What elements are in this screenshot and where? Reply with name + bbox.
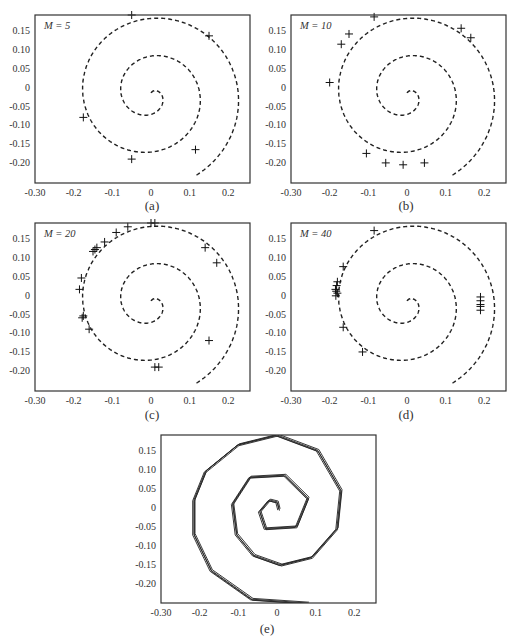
y-tick-label: 0.10 xyxy=(13,44,31,55)
data-point-plus-icon xyxy=(91,246,99,254)
data-point-plus-icon xyxy=(112,228,120,236)
data-point-plus-icon xyxy=(213,259,221,267)
y-tick-label: 0.10 xyxy=(269,252,287,263)
y-tick-label: -0.10 xyxy=(9,327,30,338)
trajectory-plot-e: -0.30-0.2-0.100.10.20.150.100.050-0.05-0… xyxy=(126,420,388,620)
x-tick-label: -0.1 xyxy=(360,187,376,198)
plot-frame xyxy=(161,435,376,603)
scatter-plot-a: -0.30-0.2-0.100.10.20.150.100.050-0.05-0… xyxy=(0,0,259,200)
x-tick-label: -0.2 xyxy=(192,607,208,618)
data-point-plus-icon xyxy=(339,323,347,331)
panel-label: M = 10 xyxy=(299,20,332,31)
y-tick-label: 0.05 xyxy=(269,271,287,282)
data-point-plus-icon xyxy=(89,247,97,255)
x-tick-label: 0.1 xyxy=(183,395,196,406)
y-tick-label: 0.15 xyxy=(13,233,31,244)
x-tick-label: -0.1 xyxy=(360,395,376,406)
panel-label: M = 20 xyxy=(43,228,76,239)
x-tick-label: -0.2 xyxy=(322,395,338,406)
x-tick-label: -0.30 xyxy=(281,187,302,198)
y-tick-label: -0.15 xyxy=(9,346,30,357)
x-tick-label: 0.1 xyxy=(439,187,452,198)
y-tick-label: 0.15 xyxy=(269,233,287,244)
scatter-plot-d: -0.30-0.2-0.100.10.20.150.100.050-0.05-0… xyxy=(256,208,518,408)
y-tick-label: 0.10 xyxy=(139,464,157,475)
x-tick-label: -0.1 xyxy=(104,395,120,406)
y-tick-label: 0.05 xyxy=(13,63,31,74)
data-point-plus-icon xyxy=(191,146,199,154)
y-tick-label: -0.20 xyxy=(135,578,156,589)
panel-label: M = 5 xyxy=(43,20,70,31)
plot-frame xyxy=(291,223,506,391)
y-tick-label: -0.15 xyxy=(265,138,286,149)
caption-d: (d) xyxy=(386,407,426,423)
trajectory-line xyxy=(194,436,341,604)
x-tick-label: 0.2 xyxy=(478,395,491,406)
y-tick-label: -0.15 xyxy=(9,138,30,149)
scatter-plot-c: -0.30-0.2-0.100.10.20.150.100.050-0.05-0… xyxy=(0,208,259,408)
y-tick-label: -0.20 xyxy=(9,365,30,376)
y-tick-label: 0.15 xyxy=(13,25,31,36)
x-tick-label: 0 xyxy=(149,395,154,406)
data-point-plus-icon xyxy=(337,40,345,48)
trajectory-line xyxy=(193,436,340,604)
y-tick-label: 0 xyxy=(151,502,156,513)
plot-frame xyxy=(35,15,250,183)
y-tick-label: 0.10 xyxy=(269,44,287,55)
chart-panel-c: -0.30-0.2-0.100.10.20.150.100.050-0.05-0… xyxy=(0,208,259,408)
chart-panel-b: -0.30-0.2-0.100.10.20.150.100.050-0.05-0… xyxy=(256,0,518,200)
y-tick-label: 0 xyxy=(281,82,286,93)
y-tick-label: 0.15 xyxy=(139,445,157,456)
y-tick-label: -0.20 xyxy=(265,157,286,168)
reference-spiral xyxy=(83,18,239,176)
x-tick-label: -0.2 xyxy=(66,187,82,198)
y-tick-label: -0.05 xyxy=(9,309,30,320)
data-point-plus-icon xyxy=(457,24,465,32)
y-tick-label: 0 xyxy=(281,290,286,301)
data-point-plus-icon xyxy=(399,161,407,169)
data-point-plus-icon xyxy=(205,337,213,345)
y-tick-label: 0.05 xyxy=(269,63,287,74)
data-point-plus-icon xyxy=(79,113,87,121)
x-tick-label: -0.2 xyxy=(322,187,338,198)
x-tick-label: 0.1 xyxy=(309,607,322,618)
y-tick-label: -0.05 xyxy=(135,521,156,532)
y-tick-label: -0.05 xyxy=(9,101,30,112)
y-tick-label: -0.10 xyxy=(265,327,286,338)
y-tick-label: -0.10 xyxy=(9,119,30,130)
caption-e: (e) xyxy=(247,621,287,637)
data-point-plus-icon xyxy=(370,13,378,21)
chart-panel-a: -0.30-0.2-0.100.10.20.150.100.050-0.05-0… xyxy=(0,0,259,200)
x-tick-label: -0.30 xyxy=(25,395,46,406)
chart-panel-e: -0.30-0.2-0.100.10.20.150.100.050-0.05-0… xyxy=(126,420,388,620)
plot-area xyxy=(193,434,342,604)
y-tick-label: -0.15 xyxy=(135,559,156,570)
data-point-plus-icon xyxy=(370,227,378,235)
x-tick-label: -0.30 xyxy=(151,607,172,618)
plot-area xyxy=(339,18,495,176)
data-point-plus-icon xyxy=(205,32,213,40)
y-tick-label: -0.20 xyxy=(9,157,30,168)
panel-label: M = 40 xyxy=(299,228,332,239)
scatter-plot-b: -0.30-0.2-0.100.10.20.150.100.050-0.05-0… xyxy=(256,0,518,200)
trajectory-line xyxy=(195,434,342,602)
data-point-plus-icon xyxy=(382,159,390,167)
data-point-plus-icon xyxy=(75,285,83,293)
data-point-plus-icon xyxy=(476,306,484,314)
x-tick-label: 0 xyxy=(405,187,410,198)
data-point-plus-icon xyxy=(345,30,353,38)
y-tick-label: 0 xyxy=(25,82,30,93)
x-tick-label: 0 xyxy=(149,187,154,198)
x-tick-label: 0 xyxy=(405,395,410,406)
x-tick-label: 0.2 xyxy=(348,607,361,618)
x-tick-label: -0.30 xyxy=(25,187,46,198)
x-tick-label: 0.1 xyxy=(439,395,452,406)
reference-spiral xyxy=(339,18,495,176)
x-tick-label: 0.2 xyxy=(222,395,235,406)
x-tick-label: -0.30 xyxy=(281,395,302,406)
trajectory-line xyxy=(194,435,341,603)
chart-panel-d: -0.30-0.2-0.100.10.20.150.100.050-0.05-0… xyxy=(256,208,518,408)
data-point-plus-icon xyxy=(420,159,428,167)
plot-frame xyxy=(35,223,250,391)
data-point-plus-icon xyxy=(79,312,87,320)
